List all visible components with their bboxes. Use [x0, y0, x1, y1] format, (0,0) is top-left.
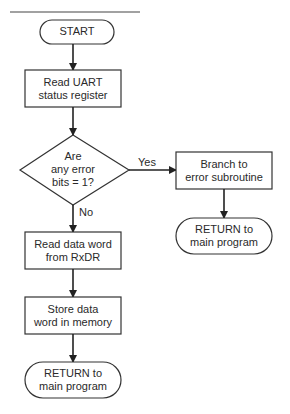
- branch-line-1: Branch to: [176, 158, 272, 171]
- read-data-line-2: from RxDR: [25, 251, 121, 264]
- return-main-line-1: RETURN to: [25, 367, 121, 380]
- yes-label: Yes: [138, 156, 156, 168]
- store-label: Store data word in memory: [25, 303, 121, 329]
- decision-label: Are any error bits = 1?: [33, 150, 113, 189]
- return-error-label: RETURN to main program: [176, 223, 272, 249]
- read-data-label: Read data word from RxDR: [25, 238, 121, 264]
- flowchart-canvas: [0, 0, 290, 414]
- return-error-line-2: main program: [176, 236, 272, 249]
- decision-line-2: any error: [33, 163, 113, 176]
- read-status-label: Read UART status register: [25, 76, 121, 102]
- return-error-line-1: RETURN to: [176, 223, 272, 236]
- read-data-line-1: Read data word: [25, 238, 121, 251]
- decision-line-3: bits = 1?: [33, 176, 113, 189]
- branch-label: Branch to error subroutine: [176, 158, 272, 184]
- return-main-line-2: main program: [25, 380, 121, 393]
- return-main-label: RETURN to main program: [25, 367, 121, 393]
- read-status-line-2: status register: [25, 89, 121, 102]
- store-line-2: word in memory: [25, 316, 121, 329]
- start-label: START: [40, 25, 114, 38]
- no-label: No: [79, 206, 93, 218]
- read-status-line-1: Read UART: [25, 76, 121, 89]
- store-line-1: Store data: [25, 303, 121, 316]
- branch-line-2: error subroutine: [176, 171, 272, 184]
- decision-line-1: Are: [33, 150, 113, 163]
